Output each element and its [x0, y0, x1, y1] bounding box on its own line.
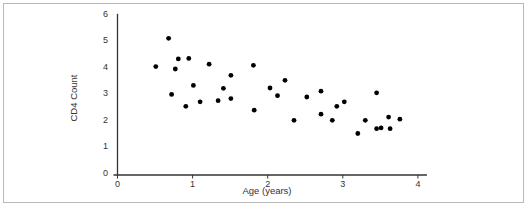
data-points	[153, 36, 402, 136]
data-point	[363, 118, 368, 123]
data-point	[252, 108, 257, 113]
data-point	[379, 126, 384, 131]
data-point	[183, 104, 188, 109]
y-axis-title: CD4 Count	[68, 74, 79, 121]
data-point	[292, 118, 297, 123]
data-point	[216, 98, 221, 103]
data-point	[334, 104, 339, 109]
data-point	[388, 126, 393, 131]
data-point	[319, 89, 324, 94]
data-point	[386, 115, 391, 120]
x-tick-label: 3	[340, 179, 345, 189]
data-point	[304, 95, 309, 100]
y-tick-label: 5	[103, 35, 108, 45]
data-point	[268, 86, 273, 91]
y-axis: 0123456	[103, 9, 118, 178]
data-point	[173, 67, 178, 72]
data-point	[229, 96, 234, 101]
data-point	[374, 126, 379, 131]
y-tick-label: 1	[103, 141, 108, 151]
data-point	[153, 64, 158, 69]
data-point	[330, 118, 335, 123]
data-point	[191, 83, 196, 88]
y-tick-label: 4	[103, 62, 108, 72]
y-tick-label: 3	[103, 88, 108, 98]
data-point	[374, 90, 379, 95]
x-axis-title: Age (years)	[242, 185, 291, 196]
data-point	[221, 86, 226, 91]
data-point	[319, 112, 324, 117]
data-point	[283, 78, 288, 83]
data-point	[355, 131, 360, 136]
data-point	[229, 73, 234, 78]
data-point	[342, 99, 347, 104]
data-point	[398, 117, 403, 122]
x-tick-label: 0	[115, 179, 120, 189]
data-point	[207, 62, 212, 67]
data-point	[186, 56, 191, 61]
scatter-chart: 0123456 01234 Age (years) CD4 Count	[0, 0, 527, 214]
y-tick-label: 6	[103, 9, 108, 19]
data-point	[275, 93, 280, 98]
x-tick-label: 4	[415, 179, 420, 189]
y-tick-label: 0	[103, 168, 108, 178]
y-tick-label: 2	[103, 115, 108, 125]
data-point	[169, 92, 174, 97]
data-point	[166, 36, 171, 41]
x-tick-label: 1	[190, 179, 195, 189]
data-point	[198, 99, 203, 104]
data-point	[251, 63, 256, 68]
data-point	[176, 57, 181, 62]
